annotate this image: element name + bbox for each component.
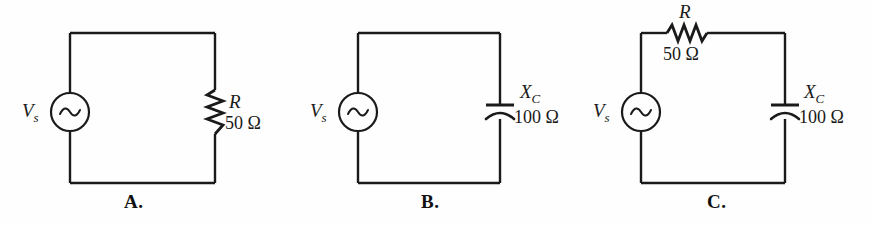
ac-source-icon: [622, 93, 660, 131]
capacitor-icon: [486, 105, 514, 119]
component-value-a-resistor: 50 Ω: [225, 114, 261, 133]
source-label-c: Vs: [593, 101, 610, 124]
ac-source-icon: [51, 93, 89, 131]
ac-source-icon: [339, 93, 377, 131]
component-symbol-c-resistor: R: [679, 2, 691, 25]
source-label-b: Vs: [310, 101, 327, 124]
circuit-panel-c: Vs R 50 Ω XC 100 Ω C.: [571, 0, 873, 226]
panel-letter-c: C.: [707, 191, 726, 213]
component-value-c-capacitor: 100 Ω: [799, 108, 844, 127]
panel-letter-b: B.: [421, 191, 439, 213]
component-symbol-a-resistor: R: [229, 92, 241, 115]
resistor-icon: [667, 25, 711, 41]
component-value-b-capacitor: 100 Ω: [514, 108, 559, 127]
circuit-panel-a: Vs R 50 Ω A.: [0, 0, 300, 226]
circuit-panel-b: Vs XC 100 Ω B.: [288, 0, 578, 226]
source-label-a: Vs: [22, 101, 39, 124]
component-symbol-c-capacitor: XC: [804, 82, 824, 105]
component-value-c-resistor: 50 Ω: [663, 45, 699, 64]
resistor-icon: [207, 90, 223, 134]
component-symbol-b-capacitor: XC: [520, 82, 540, 105]
panel-letter-a: A.: [124, 191, 143, 213]
capacitor-icon: [771, 105, 799, 119]
circuit-figure: Vs R 50 Ω A.: [0, 0, 873, 226]
